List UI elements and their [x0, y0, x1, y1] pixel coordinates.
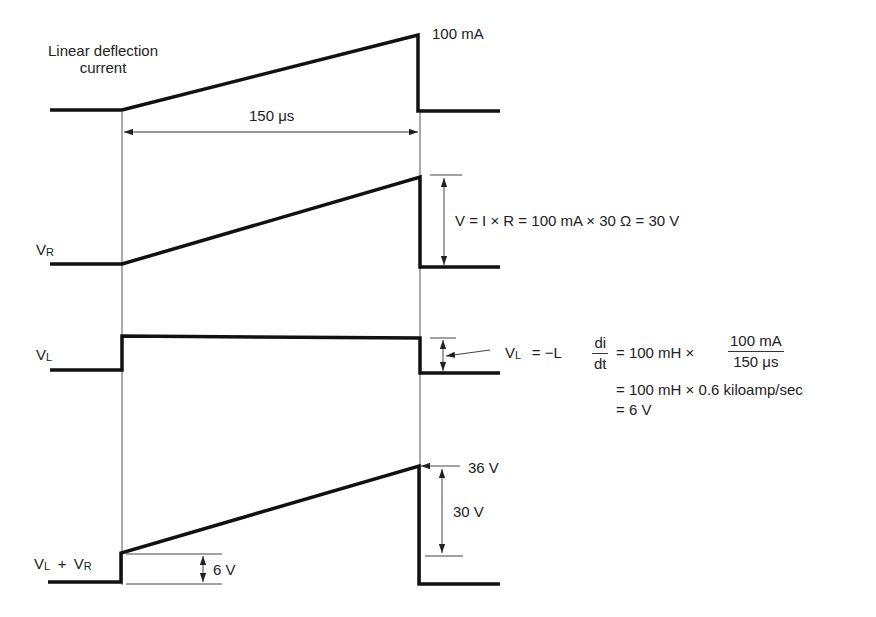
- sum-dimensions: [126, 466, 463, 584]
- vl-step3: = 6 V: [616, 401, 651, 418]
- time-reference-lines: [122, 112, 420, 585]
- vl-leader-arrow: [446, 350, 490, 356]
- vr-waveform: [50, 177, 500, 267]
- vr-equation: V = I × R = 100 mA × 30 Ω = 30 V: [455, 212, 679, 229]
- vl-waveform: [50, 336, 500, 373]
- sum-waveform: [48, 466, 500, 584]
- current-label-line2: current: [32, 59, 174, 76]
- vl-step2: = 100 mH × 0.6 kiloamp/sec: [616, 381, 803, 398]
- current-over-time-fraction: 100 mA 150 μs: [728, 332, 784, 371]
- vl-dimension: [430, 338, 490, 371]
- step-6v-label: 6 V: [213, 561, 236, 578]
- vr-label: VR: [36, 241, 54, 261]
- di-dt-fraction: di dt: [592, 334, 609, 373]
- current-label-line1: Linear deflection: [32, 42, 174, 59]
- ramp-30v-label: 30 V: [453, 503, 484, 520]
- sum-label: VL + VR: [34, 555, 92, 575]
- vl-step1-prefix: = 100 mH ×: [616, 344, 694, 361]
- vl-label: VL: [36, 346, 53, 366]
- peak-36v-label: 36 V: [468, 459, 499, 476]
- peak-current-label: 100 mA: [432, 25, 484, 42]
- vl-equation-lhs: VL = −L: [505, 344, 562, 364]
- duration-label: 150 μs: [249, 107, 294, 124]
- current-label: Linear deflection current: [32, 42, 174, 76]
- deflection-waveform-diagram: [0, 0, 876, 617]
